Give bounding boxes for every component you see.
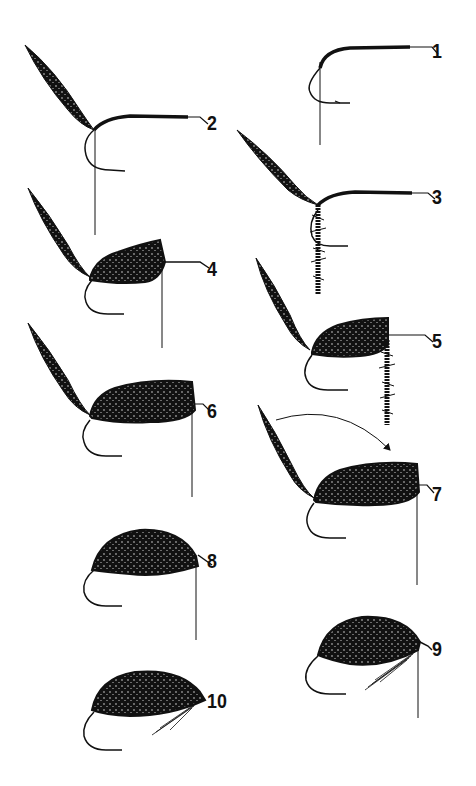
dubbed-body-icon xyxy=(312,318,388,357)
step-6-full-body xyxy=(28,323,210,497)
wing-feather-icon xyxy=(258,405,314,498)
illustration-canvas xyxy=(0,0,476,786)
hook-shank-icon xyxy=(320,47,410,68)
wing-feather-icon xyxy=(256,258,310,350)
leader-line xyxy=(420,642,432,650)
step-label-2: 2 xyxy=(207,112,217,133)
step-label-4: 4 xyxy=(207,258,217,279)
step-7-wing-folded-over xyxy=(258,405,434,585)
step-10-finished-fly xyxy=(84,671,205,750)
hook-bend-icon xyxy=(307,503,346,538)
dubbed-body-icon xyxy=(90,381,195,423)
hook-shank-icon xyxy=(318,192,412,205)
step-1-hook-with-thread xyxy=(309,47,438,145)
dubbed-body-icon xyxy=(314,463,419,505)
step-8-wing-tied-down xyxy=(84,530,212,640)
hook-bend-icon xyxy=(85,280,124,314)
step-label-6: 6 xyxy=(207,400,217,421)
step-label-7: 7 xyxy=(432,483,442,504)
wing-feather-icon xyxy=(25,45,94,130)
leader-line xyxy=(165,262,209,268)
hook-bend-icon xyxy=(84,712,122,750)
leader-line xyxy=(388,335,433,342)
hook-shank-icon xyxy=(94,116,188,130)
wing-over-body-icon xyxy=(92,530,198,575)
leader-line xyxy=(188,117,208,124)
hook-bend-icon xyxy=(305,355,348,390)
hook-bend-icon xyxy=(84,570,122,606)
step-label-3: 3 xyxy=(432,186,442,207)
wing-feather-icon xyxy=(28,323,90,415)
fold-direction-arrow-icon xyxy=(276,414,390,450)
step-label-10: 10 xyxy=(207,690,227,711)
dubbed-body-icon xyxy=(90,240,165,283)
hook-bend-icon xyxy=(85,130,125,171)
fly-tying-diagram: 1 2 3 4 5 6 7 8 9 10 xyxy=(0,0,476,786)
wing-feather-icon xyxy=(237,130,318,205)
wing-over-body-icon xyxy=(318,617,420,665)
step-4-body-partially-wound xyxy=(28,188,209,348)
step-3-dubbing-loop xyxy=(237,130,435,295)
step-9-hackle-added xyxy=(306,617,432,718)
step-2-wing-tied-in xyxy=(25,45,208,235)
step-label-9: 9 xyxy=(432,638,442,659)
hook-bend-icon xyxy=(309,68,350,103)
wing-feather-icon xyxy=(28,188,90,277)
step-5-body-wound-with-rope xyxy=(256,258,433,425)
step-label-5: 5 xyxy=(432,330,442,351)
step-label-8: 8 xyxy=(207,550,217,571)
hook-bend-icon xyxy=(83,420,122,456)
step-label-1: 1 xyxy=(432,40,442,61)
